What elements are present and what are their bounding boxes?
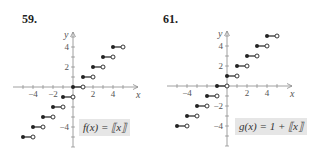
open-endpoint xyxy=(31,135,35,139)
closed-endpoint xyxy=(205,94,209,98)
open-endpoint xyxy=(91,75,95,79)
open-endpoint xyxy=(71,95,75,99)
y-tick-label: 4 xyxy=(65,42,70,52)
closed-endpoint xyxy=(101,55,105,59)
open-endpoint xyxy=(195,114,199,118)
open-endpoint xyxy=(121,45,125,49)
open-endpoint xyxy=(111,55,115,59)
open-endpoint xyxy=(81,85,85,89)
x-tick-label: 2 xyxy=(245,88,250,98)
open-endpoint xyxy=(235,74,239,78)
closed-endpoint xyxy=(185,114,189,118)
closed-endpoint xyxy=(175,124,179,128)
closed-endpoint xyxy=(71,85,75,89)
closed-endpoint xyxy=(111,45,115,49)
open-endpoint xyxy=(225,84,229,88)
y-tick-label: 2 xyxy=(65,62,70,72)
x-tick-label: 4 xyxy=(265,88,270,98)
function-label: f(x) = ⟦x⟧ xyxy=(79,119,130,136)
x-tick-label: −2 xyxy=(48,89,58,99)
open-endpoint xyxy=(255,54,259,58)
open-endpoint xyxy=(51,115,55,119)
open-endpoint xyxy=(215,94,219,98)
open-endpoint xyxy=(275,34,279,38)
closed-endpoint xyxy=(81,75,85,79)
open-endpoint xyxy=(61,105,65,109)
open-endpoint xyxy=(185,124,189,128)
closed-endpoint xyxy=(195,104,199,108)
x-tick-label: −4 xyxy=(28,89,38,99)
closed-endpoint xyxy=(215,84,219,88)
closed-endpoint xyxy=(61,95,65,99)
x-tick-label: −4 xyxy=(182,88,192,98)
closed-endpoint xyxy=(255,44,259,48)
closed-endpoint xyxy=(225,74,229,78)
x-axis-label: x xyxy=(135,89,141,100)
y-tick-label: −4 xyxy=(59,122,69,132)
y-axis-label: y xyxy=(217,28,223,39)
closed-endpoint xyxy=(31,125,35,129)
open-endpoint xyxy=(245,64,249,68)
closed-endpoint xyxy=(91,65,95,69)
open-endpoint xyxy=(205,104,209,108)
y-tick-label: −4 xyxy=(213,121,223,131)
y-tick-label: −2 xyxy=(213,101,223,111)
closed-endpoint xyxy=(235,64,239,68)
y-tick-label: 2 xyxy=(219,61,224,71)
y-axis-label: y xyxy=(63,29,69,40)
x-axis-label: x xyxy=(289,88,295,99)
y-tick-label: 4 xyxy=(219,41,224,51)
closed-endpoint xyxy=(265,34,269,38)
function-label: g(x) = 1 + ⟦x⟧ xyxy=(235,118,307,135)
plot-61: 61. −42442−2−4xy g(x) = 1 + ⟦x⟧ xyxy=(155,0,310,150)
closed-endpoint xyxy=(245,54,249,58)
plot-59: 59. −4−22442−4xy f(x) = ⟦x⟧ xyxy=(0,0,155,150)
open-endpoint xyxy=(41,125,45,129)
x-tick-label: 4 xyxy=(111,89,116,99)
x-tick-label: 2 xyxy=(91,89,96,99)
closed-endpoint xyxy=(21,135,25,139)
closed-endpoint xyxy=(51,105,55,109)
open-endpoint xyxy=(101,65,105,69)
plot-59-svg: −4−22442−4xy xyxy=(0,0,155,150)
open-endpoint xyxy=(265,44,269,48)
closed-endpoint xyxy=(41,115,45,119)
